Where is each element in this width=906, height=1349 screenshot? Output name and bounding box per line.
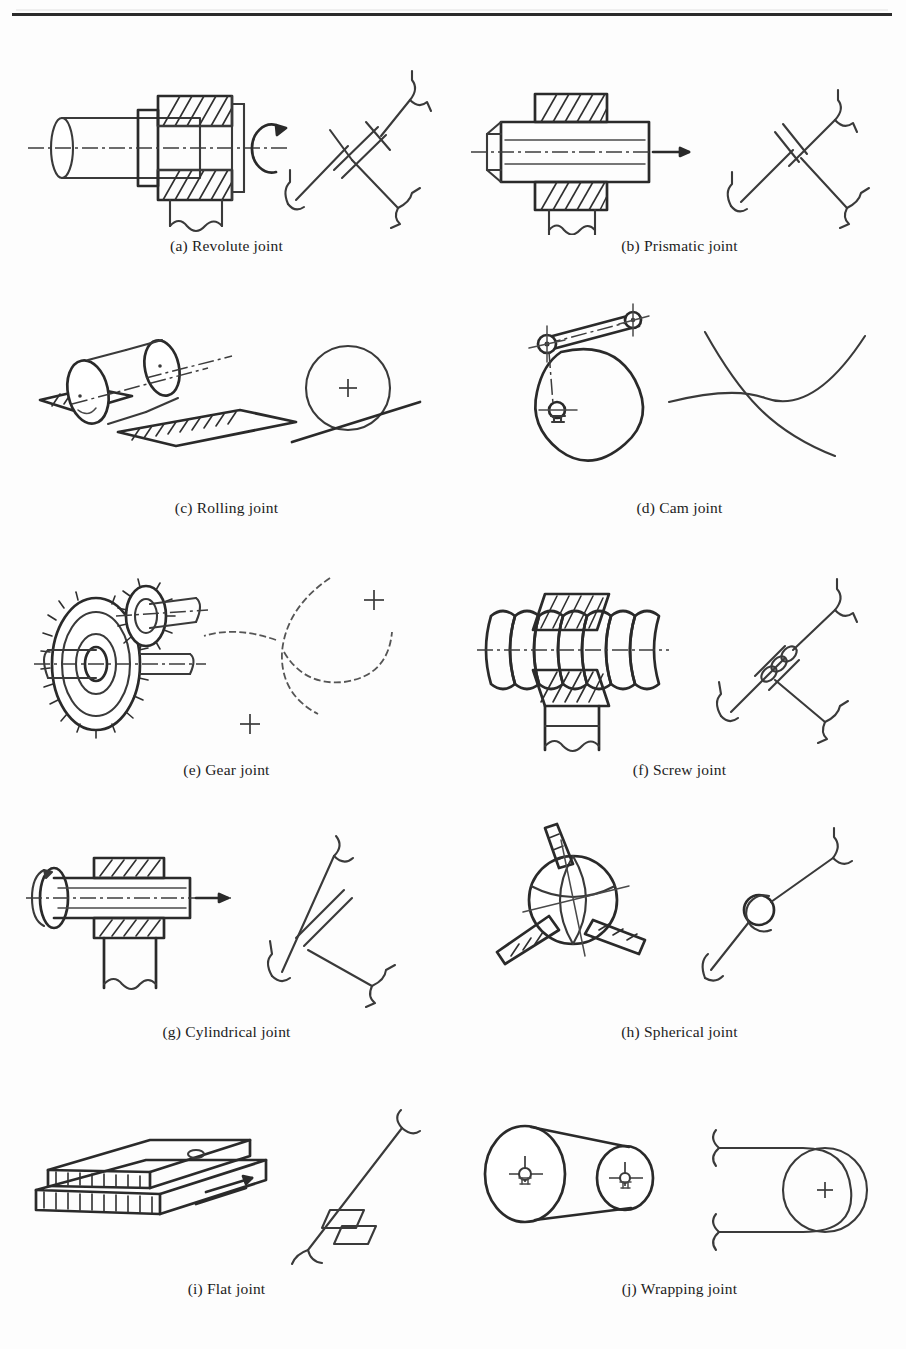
figure-j-graphic: [453, 1078, 906, 1278]
spherical-symbol: [703, 828, 852, 981]
figure-cell-a: (a) Revolute joint: [0, 30, 453, 292]
figure-cell-h: (h) Spherical joint: [453, 816, 906, 1078]
wrapping-symbol: [713, 1130, 867, 1250]
flat-symbol: [292, 1110, 420, 1264]
figure-caption-e: (e) Gear joint: [0, 761, 453, 779]
figure-a-graphic: [0, 30, 453, 235]
revolute-symbol: [285, 71, 431, 228]
figure-row-5: (i) Flat joint: [0, 1078, 906, 1338]
screw-pictorial: [477, 594, 669, 751]
figure-row-1: (a) Revolute joint: [0, 30, 906, 292]
cam-pictorial: [529, 304, 649, 461]
figure-f-graphic: [453, 554, 906, 759]
figure-cell-b: (b) Prismatic joint: [453, 30, 906, 292]
figure-caption-h-text: (h) Spherical joint: [621, 1023, 738, 1041]
figure-caption-i-text: (i) Flat joint: [188, 1280, 266, 1298]
cylindrical-pictorial: [26, 858, 232, 989]
figure-h-graphic: [453, 816, 906, 1021]
gear-pictorial: [34, 579, 208, 738]
figure-cell-f: (f) Screw joint: [453, 554, 906, 816]
figure-row-3: (e) Gear joint: [0, 554, 906, 816]
figure-i-graphic: [0, 1078, 453, 1278]
figure-caption-h: (h) Spherical joint: [453, 1023, 906, 1041]
wrapping-pictorial: [485, 1126, 653, 1222]
flat-pictorial: [36, 1140, 266, 1214]
rolling-pictorial: [40, 337, 296, 446]
figure-b-graphic: [453, 30, 906, 235]
figure-cell-c: (c) Rolling joint: [0, 292, 453, 554]
figure-d-graphic: [453, 292, 906, 497]
figure-e-graphic: [0, 554, 453, 759]
figure-caption-g: (g) Cylindrical joint: [0, 1023, 453, 1041]
header-rule: [12, 13, 892, 16]
screw-symbol: [717, 579, 857, 743]
prismatic-symbol: [728, 90, 869, 228]
figure-caption-f: (f) Screw joint: [453, 761, 906, 779]
gear-symbol: [204, 578, 392, 734]
figure-caption-d-text: (d) Cam joint: [636, 499, 722, 517]
figure-caption-j-text: (j) Wrapping joint: [622, 1280, 737, 1298]
spherical-pictorial: [497, 824, 645, 964]
figure-caption-f-text: (f) Screw joint: [633, 761, 726, 779]
cylindrical-symbol: [268, 836, 395, 1007]
figure-caption-a: (a) Revolute joint: [0, 237, 453, 255]
figure-g-graphic: [0, 816, 453, 1021]
figure-cell-d: (d) Cam joint: [453, 292, 906, 554]
figure-caption-a-text: (a) Revolute joint: [170, 237, 283, 255]
cam-symbol: [669, 332, 865, 456]
figure-row-4: (g) Cylindrical joint: [0, 816, 906, 1078]
figure-c-graphic: [0, 292, 453, 497]
figure-grid: (a) Revolute joint: [0, 30, 906, 1338]
figure-caption-b-text: (b) Prismatic joint: [621, 237, 738, 255]
figure-cell-g: (g) Cylindrical joint: [0, 816, 453, 1078]
figure-caption-c-text: (c) Rolling joint: [175, 499, 278, 517]
figure-caption-c: (c) Rolling joint: [0, 499, 453, 517]
figure-caption-d: (d) Cam joint: [453, 499, 906, 517]
figure-caption-j: (j) Wrapping joint: [453, 1280, 906, 1298]
prismatic-pictorial: [471, 94, 689, 235]
figure-cell-i: (i) Flat joint: [0, 1078, 453, 1338]
figure-cell-j: (j) Wrapping joint: [453, 1078, 906, 1338]
figure-caption-e-text: (e) Gear joint: [183, 761, 269, 779]
rolling-symbol: [292, 346, 420, 442]
revolute-pictorial: [28, 96, 290, 231]
figure-row-2: (c) Rolling joint: [0, 292, 906, 554]
figure-caption-i: (i) Flat joint: [0, 1280, 453, 1298]
figure-caption-b: (b) Prismatic joint: [453, 237, 906, 255]
figure-caption-g-text: (g) Cylindrical joint: [162, 1023, 290, 1041]
figure-cell-e: (e) Gear joint: [0, 554, 453, 816]
figure-page: (a) Revolute joint: [0, 0, 906, 1349]
